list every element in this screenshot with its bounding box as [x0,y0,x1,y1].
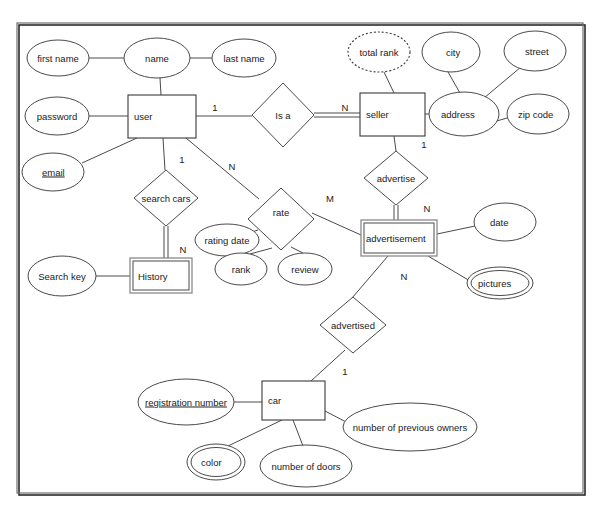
attribute-color-multivalued[interactable]: color [187,444,245,480]
edge-email-user [82,138,137,163]
edge-seller-advertise [394,136,396,151]
cardinality-user-searchcars: 1 [179,154,184,165]
attribute-number-of-previous-owners-label: number of previous owners [353,422,468,433]
attribute-number-of-doors[interactable]: number of doors [260,445,352,487]
attribute-password[interactable]: password [25,97,89,135]
attribute-rating-date-label: rating date [205,235,250,246]
edge-totalrank-seller [384,72,394,93]
edge-advertised-car [311,350,345,381]
cardinality-advertisement-advertised: N [401,271,408,282]
cardinality-user-isa: 1 [212,102,217,113]
attribute-city[interactable]: city [422,32,480,72]
er-diagram-canvas: first name name last name password email… [0,0,602,515]
attribute-rank[interactable]: rank [215,253,267,285]
edge-street-address [484,67,521,98]
relationship-advertised[interactable]: advertised [320,297,386,353]
entity-seller[interactable]: seller [360,93,425,136]
attribute-password-label: password [37,111,78,122]
cardinality-seller-advertise: 1 [421,139,426,150]
attribute-rank-label: rank [232,264,251,275]
attribute-review-label: review [291,264,319,275]
attribute-number-of-doors-label: number of doors [271,461,340,472]
attribute-zip-code[interactable]: zip code [507,94,569,134]
entity-advertisement-label: advertisement [366,233,426,244]
attribute-color-label: color [201,457,222,468]
relationship-advertise[interactable]: advertise [364,151,428,205]
attribute-zip-code-label: zip code [518,109,553,120]
er-diagram-svg: first name name last name password email… [0,0,602,515]
edge-rate-advertisement [312,213,361,235]
edge-advertisement-date [437,226,475,234]
attribute-registration-number[interactable]: registration number [138,379,234,425]
cardinality-searchcars-history: N [180,244,187,255]
edge-car-color [228,420,282,446]
attribute-search-key[interactable]: Search key [28,256,96,296]
attribute-street-label: street [525,46,549,57]
attribute-email-label: email [42,167,65,178]
relationship-advertised-label: advertised [331,320,375,331]
relationship-is-a-label: Is a [275,110,291,121]
attribute-pictures-multivalued[interactable]: pictures [467,267,533,299]
attribute-first-name-label: first name [37,53,79,64]
attribute-number-of-previous-owners[interactable]: number of previous owners [343,403,477,451]
edge-name-user [160,78,161,95]
attribute-date[interactable]: date [474,203,536,241]
entity-history-label: History [138,271,168,282]
relationship-search-cars[interactable]: search cars [134,170,198,226]
attribute-name-label: name [145,53,169,64]
cardinality-advertise-advertisement: N [424,203,431,214]
cardinality-advertised-car: 1 [342,366,347,377]
attribute-first-name[interactable]: first name [27,40,89,76]
edge-advertisement-advertised [352,256,388,298]
relationship-advertise-label: advertise [377,173,416,184]
relationship-is-a[interactable]: Is a [252,83,314,147]
entity-history-weak[interactable]: History [130,258,192,293]
attribute-last-name-label: last name [223,53,264,64]
relationship-rate-label: rate [273,207,289,218]
entity-car[interactable]: car [262,381,325,420]
cardinality-isa-seller: N [342,102,349,113]
entity-user-label: user [134,111,152,122]
cardinality-user-rate: N [229,161,236,172]
attribute-date-label: date [490,217,509,228]
cardinality-rate-advertisement: M [326,193,334,204]
edge-rate-review [291,247,303,253]
attribute-email[interactable]: email [22,153,84,191]
attribute-total-rank-label: total rank [359,47,398,58]
entity-user[interactable]: user [128,95,196,138]
attribute-registration-number-label: registration number [145,397,227,408]
attribute-review[interactable]: review [278,253,332,285]
entity-seller-label: seller [366,109,389,120]
attribute-total-rank-derived[interactable]: total rank [348,32,410,72]
attribute-rating-date[interactable]: rating date [195,224,259,256]
edge-city-address [448,72,460,93]
attribute-last-name[interactable]: last name [212,39,276,77]
edge-advertisement-pictures [428,256,470,281]
attribute-city-label: city [446,47,461,58]
attribute-address-label: address [441,109,475,120]
attribute-street[interactable]: street [504,31,566,71]
attribute-search-key-label: Search key [38,271,86,282]
edge-car-doors [293,420,303,446]
entity-advertisement-weak[interactable]: advertisement [361,220,437,256]
edge-user-rate [186,138,259,199]
entity-car-label: car [268,395,281,406]
relationship-search-cars-label: search cars [141,193,190,204]
attribute-pictures-label: pictures [478,278,512,289]
edge-user-searchcars [163,138,165,170]
attribute-name[interactable]: name [124,38,190,78]
attribute-address[interactable]: address [429,92,499,136]
